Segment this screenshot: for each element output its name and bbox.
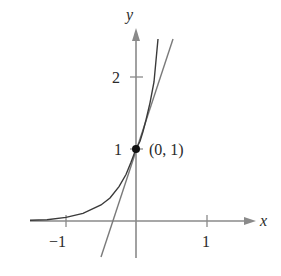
x-axis-arrow-icon (244, 217, 256, 225)
y-axis (130, 28, 143, 258)
x-tick-label-neg1: −1 (49, 233, 66, 250)
x-axis-label: x (259, 212, 267, 229)
point-marker (132, 145, 140, 153)
y-tick-label-1: 1 (114, 141, 122, 158)
y-tick-label-2: 2 (112, 69, 120, 86)
x-axis (30, 215, 256, 227)
x-tick-label-1: 1 (202, 233, 210, 250)
exponential-curve (30, 39, 158, 220)
y-axis-arrow-icon (132, 28, 140, 41)
y-axis-label: y (124, 6, 134, 24)
chart-canvas: y x −1 1 2 1 (0, 1) (0, 0, 281, 276)
point-label: (0, 1) (149, 141, 184, 159)
